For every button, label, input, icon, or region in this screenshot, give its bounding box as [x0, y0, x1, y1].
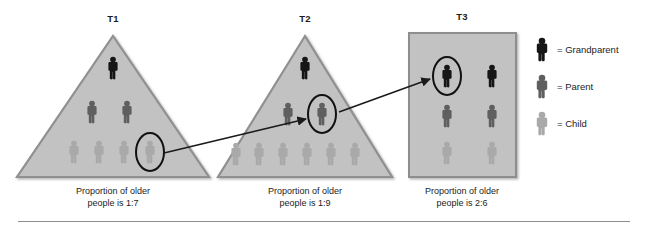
panel-caption-t1: Proportion of older people is 1:7	[48, 186, 178, 209]
legend-equals-child: =	[557, 118, 563, 129]
bottom-divider	[18, 221, 630, 222]
legend-label-grandparent: = Grandparent	[557, 44, 619, 55]
highlight-ring-t1-child	[136, 133, 164, 171]
parent-icon	[532, 73, 552, 99]
panel-caption-t3: Proportion of older people is 2:6	[397, 186, 527, 209]
legend-item-parent: = Parent	[532, 73, 593, 99]
legend-equals-parent: =	[557, 81, 563, 92]
child-icon	[532, 110, 552, 136]
arrow-t1-to-t2	[164, 119, 306, 153]
legend: = Grandparent = Parent = Child	[532, 28, 644, 138]
legend-item-child: = Child	[532, 110, 587, 136]
arrow-t2-to-t3	[339, 79, 430, 112]
legend-equals-grandparent: =	[557, 44, 563, 55]
legend-role-parent: Parent	[565, 81, 593, 92]
legend-item-grandparent: = Grandparent	[532, 36, 619, 62]
highlight-ring-t3-grandparent	[433, 57, 461, 95]
panel-caption-t2: Proportion of older people is 1:9	[240, 186, 370, 209]
figure-root: T1 T2 T3 Proportion of older people is 1…	[0, 0, 646, 231]
legend-label-parent: = Parent	[557, 81, 593, 92]
legend-role-grandparent: Grandparent	[565, 44, 618, 55]
legend-label-child: = Child	[557, 118, 587, 129]
legend-role-child: Child	[565, 118, 587, 129]
grandparent-icon	[532, 36, 552, 62]
panel-label-t3: T3	[442, 11, 482, 22]
panel-label-t2: T2	[285, 13, 325, 24]
panel-label-t1: T1	[93, 13, 133, 24]
highlight-ring-t2-parent	[308, 95, 336, 133]
